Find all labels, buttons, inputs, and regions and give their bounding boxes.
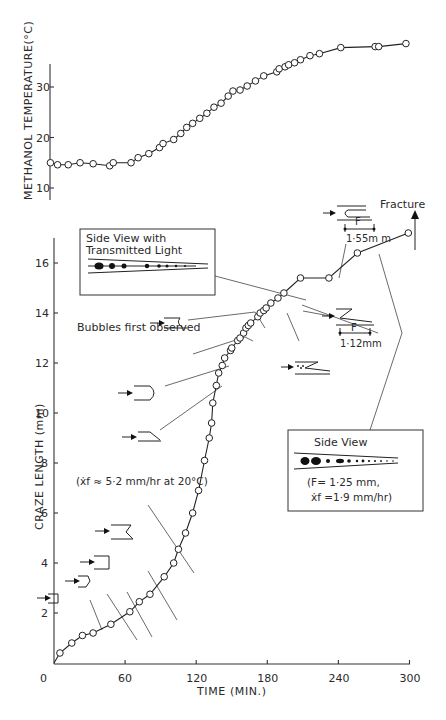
x-tick-label: 0 [40,672,47,685]
crack-tip-1-55-icon: F 1·55m m [323,206,391,244]
data-point [54,161,61,168]
data-point [405,230,412,237]
x-tick-label: 60 [118,672,132,685]
y-tick-label: 10 [36,182,50,195]
data-point [110,159,117,166]
data-point [375,43,382,50]
data-point [213,382,220,389]
y-tick-label: 30 [36,81,50,94]
x-tick-label: 240 [328,672,349,685]
svg-text:F: F [351,322,357,333]
data-point [77,159,84,166]
data-point [403,40,410,47]
data-point [79,632,86,639]
inset-title-line2: Transmitted Light [85,244,183,257]
data-point [146,150,153,157]
data-point [195,487,202,494]
x-tick-label: 120 [186,672,207,685]
data-point [219,362,226,369]
temperature-y-label: METHANOL TEMPERATURE(°C) [22,21,35,200]
data-point [260,73,267,80]
crack-tip-bubbles-icon [281,362,330,374]
x-tick-label: 300 [400,672,421,685]
data-point [175,546,182,553]
data-point [230,88,237,95]
data-point [268,300,275,307]
data-point [57,650,64,657]
data-point [135,154,142,161]
data-point [316,50,323,57]
data-point [252,78,259,85]
data-point [247,320,254,327]
data-point [183,124,190,131]
crack-tip-icon [118,386,154,400]
data-point [326,275,333,282]
data-point [170,136,177,143]
temperature-y-ticks: 102030 [36,81,54,195]
inset2-f-value: (F= 1·25 mm, [307,476,380,488]
time-x-label: TIME (MIN.) [196,685,267,698]
data-point [189,120,196,127]
data-point [297,56,304,63]
data-point [237,87,244,94]
data-point [177,130,184,137]
data-point [147,591,154,598]
data-point [127,608,134,615]
data-point [275,295,282,302]
side-view-inset: Side View (F= 1·25 mm, ẋf =1·9 mm/hr) [288,430,423,511]
data-point [221,355,228,362]
crack-tip-glyphs-left [37,318,187,603]
data-point [215,370,222,377]
data-point [182,530,189,537]
y-tick-label: 2 [41,607,48,620]
craze-y-label: CRAZE LENGTH (mm) [33,403,46,530]
f-1-55-label: 1·55m m [346,233,391,244]
data-point [90,160,97,167]
y-tick-label: 12 [35,357,49,370]
svg-text:F: F [355,216,361,227]
craze-length-chart: 246810121416 060120180240300 CRAZE LENGT… [33,198,425,698]
data-point [244,83,251,90]
side-view-transmitted-light-inset: Side View with Transmitted Light [80,229,215,295]
data-point [354,250,361,257]
data-point [108,621,115,628]
craze-growth-figure: 102030 METHANOL TEMPERATURE(°C) 24681012… [0,0,446,720]
data-point [201,457,208,464]
data-point [228,345,235,352]
figure-canvas: 102030 METHANOL TEMPERATURE(°C) 24681012… [0,0,446,720]
data-point [128,159,135,166]
data-point [206,435,213,442]
x-tick-label: 180 [257,672,278,685]
data-point [337,44,344,51]
data-point [68,640,75,647]
data-point [160,140,167,147]
data-point [196,115,203,122]
data-point [47,159,54,166]
y-tick-label: 4 [41,557,48,570]
y-tick-label: 16 [35,257,49,270]
data-point [209,400,216,407]
temperature-chart: 102030 METHANOL TEMPERATURE(°C) [22,21,409,200]
data-point [65,161,72,168]
fracture-arrow-icon [411,210,419,250]
inset2-title: Side View [314,436,367,449]
y-tick-label: 14 [35,307,49,320]
crack-tip-icon [65,576,90,587]
data-point [204,110,211,117]
crack-tip-1-12-icon: F 1·12mm [322,309,382,349]
crack-tip-icon [80,556,109,569]
data-point [307,52,314,59]
temperature-curve [50,44,406,166]
data-point [189,510,196,517]
data-point [161,573,168,580]
f-1-12-label: 1·12mm [340,338,382,349]
data-point [170,560,177,567]
crack-tip-icon [95,525,133,539]
data-point [208,420,215,427]
crack-tip-icon [122,432,161,441]
data-point [211,104,218,111]
inset2-rate-value: ẋf =1·9 mm/hr) [311,491,392,503]
data-point [281,290,288,297]
y-tick-label: 20 [36,132,50,145]
data-point [218,100,225,107]
